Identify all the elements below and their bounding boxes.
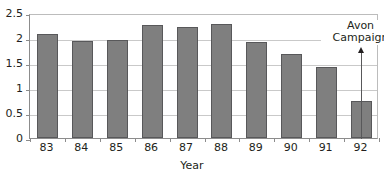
annotation-label-avon: AvonCampaign bbox=[321, 20, 384, 45]
bar bbox=[37, 34, 58, 138]
bar bbox=[211, 24, 232, 138]
x-axis-tick-label: 84 bbox=[64, 142, 99, 154]
annotation-arrow-shaft-avon bbox=[361, 53, 362, 140]
y-axis-tick-mark bbox=[26, 40, 30, 41]
bar bbox=[351, 101, 372, 139]
y-axis-tick-mark bbox=[26, 15, 30, 16]
bar bbox=[246, 42, 267, 139]
x-axis-tick-label: 86 bbox=[134, 142, 169, 154]
y-axis-tick-label: 0 bbox=[0, 133, 23, 144]
bar-chart: 00.511.522.5 83848586878889909192 AvonCa… bbox=[0, 0, 384, 180]
bar bbox=[107, 40, 128, 139]
y-axis-tick-label: 2.5 bbox=[0, 8, 23, 19]
x-axis-tick-label: 91 bbox=[308, 142, 343, 154]
annotation-label-line2-avon: Campaign bbox=[321, 32, 384, 45]
y-axis-tick-label: 2 bbox=[0, 33, 23, 44]
x-axis-tick-label: 92 bbox=[343, 142, 378, 154]
x-axis-tick-label: 90 bbox=[273, 142, 308, 154]
bar bbox=[177, 27, 198, 138]
y-axis-tick-label: 0.5 bbox=[0, 108, 23, 119]
x-axis-tick-mark bbox=[379, 138, 380, 142]
bar bbox=[72, 41, 93, 138]
y-axis-tick-mark bbox=[26, 115, 30, 116]
x-axis-title: Year bbox=[0, 160, 384, 172]
y-axis-tick-label: 1 bbox=[0, 83, 23, 94]
y-axis-tick-mark bbox=[26, 65, 30, 66]
x-axis-tick-label: 87 bbox=[169, 142, 204, 154]
x-axis-tick-label: 88 bbox=[204, 142, 239, 154]
bar bbox=[316, 67, 337, 139]
x-axis-tick-label: 83 bbox=[29, 142, 64, 154]
x-axis-tick-label: 89 bbox=[238, 142, 273, 154]
y-axis-tick-mark bbox=[26, 90, 30, 91]
bar bbox=[281, 54, 302, 138]
y-axis-tick-label: 1.5 bbox=[0, 58, 23, 69]
bar bbox=[142, 25, 163, 138]
x-axis-tick-label: 85 bbox=[99, 142, 134, 154]
annotation-arrow-head-avon bbox=[358, 47, 364, 53]
